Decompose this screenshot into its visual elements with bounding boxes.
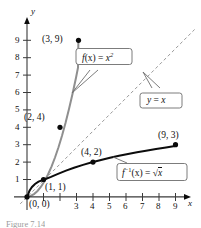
callout-parabola-arg: (x)	[85, 53, 96, 63]
point-label-3-9: (3, 9)	[42, 35, 63, 45]
figure-container: y x 9 8 7 6 5 4 3 2 1 3 4 5 6 7 8 9 (3, …	[0, 0, 201, 228]
y-tick-label-9: 9	[15, 36, 20, 45]
y-tick-label-3: 3	[15, 140, 20, 149]
callout-parabola-eq: =	[96, 53, 106, 63]
point-2-4	[57, 125, 62, 130]
callout-identity-eq: =	[151, 95, 161, 105]
point-label-2-4: (2, 4)	[24, 113, 45, 123]
figure-caption: Figure 7.14	[6, 219, 45, 228]
callout-inverse-arg: (x)	[132, 168, 143, 178]
point-9-3	[173, 142, 178, 147]
y-tick-label-8: 8	[15, 53, 20, 62]
y-tick-label-6: 6	[15, 88, 20, 97]
x-tick-label-5: 5	[107, 202, 112, 211]
callout-parabola-exponent: 2	[110, 51, 113, 58]
callout-inverse-text: f−1(x) = √x	[122, 167, 162, 179]
point-3-9	[76, 38, 81, 43]
x-tick-label-4: 4	[90, 202, 95, 211]
y-axis-label: y	[31, 7, 35, 16]
callout-identity-text: y = x	[147, 96, 166, 106]
point-label-4-2: (4, 2)	[81, 148, 102, 158]
x-tick-label-3: 3	[74, 202, 79, 211]
point-label-0-0: (0, 0)	[29, 200, 50, 210]
point-4-2	[90, 160, 95, 165]
y-tick-label-7: 7	[15, 71, 20, 80]
y-tick-label-5: 5	[15, 105, 20, 114]
callout-identity-rhs: x	[161, 95, 165, 105]
x-tick-label-9: 9	[173, 202, 178, 211]
x-tick-label-6: 6	[123, 202, 128, 211]
callout-parabola-text: f(x) = x2	[82, 52, 113, 64]
x-tick-label-7: 7	[140, 202, 145, 211]
callout-inverse-eq: =	[143, 168, 153, 178]
point-label-1-1: (1, 1)	[45, 183, 66, 193]
y-tick-label-1: 1	[15, 175, 20, 184]
y-axis-arrow	[24, 17, 30, 24]
x-axis-label: x	[188, 199, 192, 208]
callout-inverse-var: x	[158, 167, 162, 178]
callout-identity-leader	[143, 72, 160, 88]
point-label-9-3: (9, 3)	[158, 131, 179, 141]
x-tick-label-8: 8	[156, 202, 161, 211]
callout-inverse-exponent: −1	[125, 166, 132, 173]
y-tick-label-2: 2	[15, 158, 20, 167]
y-tick-label-4: 4	[15, 123, 20, 132]
